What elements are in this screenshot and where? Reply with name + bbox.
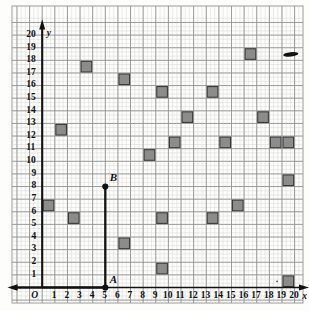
data-square xyxy=(157,263,168,274)
y-tick-14: 14 xyxy=(26,106,36,116)
x-tick-18: 18 xyxy=(264,291,274,301)
data-square xyxy=(182,112,193,123)
data-square xyxy=(283,137,294,148)
point-label-b: B xyxy=(110,172,117,183)
x-tick-3: 3 xyxy=(77,291,82,301)
y-tick-8: 8 xyxy=(32,181,37,191)
x-tick-15: 15 xyxy=(226,291,236,301)
data-square xyxy=(56,124,67,135)
x-tick-11: 11 xyxy=(176,291,185,301)
data-square xyxy=(169,137,180,148)
y-tick-11: 11 xyxy=(26,143,35,153)
data-square xyxy=(207,213,218,224)
data-square xyxy=(119,74,130,85)
data-square xyxy=(119,238,130,249)
point-b-dot xyxy=(102,183,108,189)
x-tick-13: 13 xyxy=(201,291,211,301)
y-tick-17: 17 xyxy=(26,68,36,78)
stray-speck xyxy=(276,281,278,283)
x-tick-1: 1 xyxy=(52,291,57,301)
y-tick-15: 15 xyxy=(26,93,36,103)
x-tick-10: 10 xyxy=(163,291,173,301)
y-tick-1: 1 xyxy=(32,270,37,280)
x-tick-5: 5 xyxy=(102,291,107,301)
x-tick-9: 9 xyxy=(153,291,158,301)
y-tick-7: 7 xyxy=(32,194,37,204)
data-square xyxy=(258,112,269,123)
y-axis-name: y xyxy=(47,29,51,39)
figure-canvas: O1234567891011121314151617181920x1234567… xyxy=(0,0,309,311)
data-square xyxy=(233,200,244,211)
x-tick-20: 20 xyxy=(289,291,299,301)
y-tick-12: 12 xyxy=(26,131,36,141)
y-tick-16: 16 xyxy=(26,80,36,90)
data-square xyxy=(245,49,256,60)
y-tick-4: 4 xyxy=(32,232,37,242)
x-tick-7: 7 xyxy=(128,291,133,301)
y-tick-20: 20 xyxy=(26,30,36,40)
data-square xyxy=(81,61,92,72)
data-square xyxy=(283,276,294,287)
x-tick-19: 19 xyxy=(277,291,287,301)
x-tick-17: 17 xyxy=(251,291,261,301)
x-axis-name: x xyxy=(302,292,307,302)
y-tick-6: 6 xyxy=(32,207,37,217)
data-square xyxy=(270,137,281,148)
data-square xyxy=(220,137,231,148)
y-tick-2: 2 xyxy=(32,257,37,267)
y-tick-19: 19 xyxy=(26,43,36,53)
coordinate-plot xyxy=(0,0,309,311)
data-square xyxy=(157,87,168,98)
data-square xyxy=(157,213,168,224)
y-tick-9: 9 xyxy=(32,169,37,179)
x-tick-4: 4 xyxy=(90,291,95,301)
data-square xyxy=(207,87,218,98)
data-square xyxy=(68,213,79,224)
x-tick-2: 2 xyxy=(64,291,69,301)
x-tick-6: 6 xyxy=(115,291,120,301)
y-tick-13: 13 xyxy=(26,118,36,128)
x-tick-16: 16 xyxy=(239,291,249,301)
data-square xyxy=(283,175,294,186)
y-tick-18: 18 xyxy=(26,55,36,65)
point-label-a: A xyxy=(110,274,117,285)
origin-label: O xyxy=(31,291,38,301)
x-tick-12: 12 xyxy=(188,291,198,301)
data-square xyxy=(43,200,54,211)
data-square xyxy=(144,150,155,161)
x-tick-14: 14 xyxy=(213,291,223,301)
x-tick-8: 8 xyxy=(140,291,145,301)
y-tick-10: 10 xyxy=(26,156,36,166)
y-tick-5: 5 xyxy=(32,219,37,229)
y-tick-3: 3 xyxy=(32,244,37,254)
